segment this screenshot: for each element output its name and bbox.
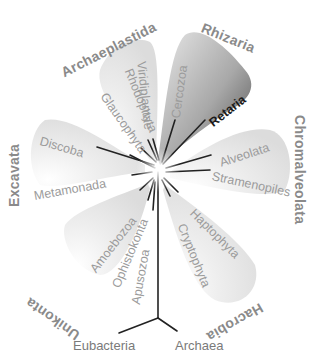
group-label-excavata: Excavata bbox=[7, 144, 21, 207]
phylogenetic-tree-diagram: Archaeplastida Rhizaria Chromalveolata H… bbox=[0, 0, 323, 361]
group-label-chromalveolata: Chromalveolata bbox=[293, 115, 307, 224]
root-label-eubacteria: Eubacteria bbox=[73, 339, 135, 352]
root-label-archaea: Archaea bbox=[175, 339, 223, 352]
